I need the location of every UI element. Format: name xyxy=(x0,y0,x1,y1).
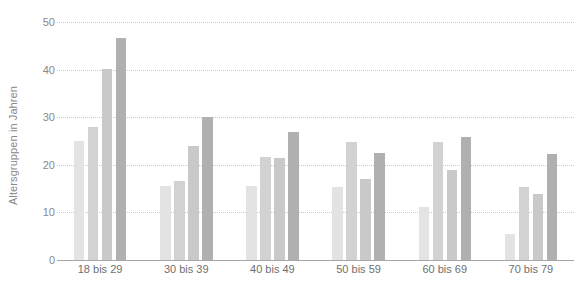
bar xyxy=(88,127,99,260)
bar xyxy=(274,158,285,260)
bar xyxy=(360,179,371,260)
bar xyxy=(374,153,385,260)
y-axis-title: Altersgruppen in Jahren xyxy=(0,0,26,291)
gridline-0 xyxy=(57,260,574,261)
bar xyxy=(116,38,127,260)
bar xyxy=(505,234,516,260)
bars-layer xyxy=(57,22,574,260)
bar xyxy=(102,69,113,260)
x-axis-tick-labels: 18 bis 2930 bis 3940 bis 4950 bis 5960 b… xyxy=(57,264,574,284)
bar xyxy=(433,142,444,260)
bar xyxy=(246,186,257,260)
bar xyxy=(260,157,271,260)
bar xyxy=(447,170,458,260)
bar xyxy=(346,142,357,260)
y-tick-label: 50 xyxy=(25,17,55,28)
y-tick-label: 20 xyxy=(25,159,55,170)
x-tick-label: 18 bis 29 xyxy=(78,264,123,275)
x-tick-label: 50 bis 59 xyxy=(336,264,381,275)
bar xyxy=(332,187,343,260)
bar xyxy=(160,186,171,260)
bar xyxy=(174,181,185,260)
bar xyxy=(519,187,530,260)
bar xyxy=(547,154,558,260)
x-tick-label: 60 bis 69 xyxy=(422,264,467,275)
y-tick-label: 40 xyxy=(25,64,55,75)
bar xyxy=(461,137,472,260)
x-tick-label: 30 bis 39 xyxy=(164,264,209,275)
bar-chart: Altersgruppen in Jahren 01020304050 18 b… xyxy=(0,0,582,291)
bar xyxy=(533,194,544,260)
bar xyxy=(188,146,199,260)
x-tick-label: 70 bis 79 xyxy=(509,264,554,275)
x-tick-label: 40 bis 49 xyxy=(250,264,295,275)
bar xyxy=(419,207,430,260)
bar xyxy=(74,141,85,260)
y-tick-label: 10 xyxy=(25,207,55,218)
bar xyxy=(288,132,299,260)
y-tick-label: 0 xyxy=(25,255,55,266)
bar xyxy=(202,117,213,260)
y-tick-label: 30 xyxy=(25,112,55,123)
plot-area xyxy=(57,22,574,260)
